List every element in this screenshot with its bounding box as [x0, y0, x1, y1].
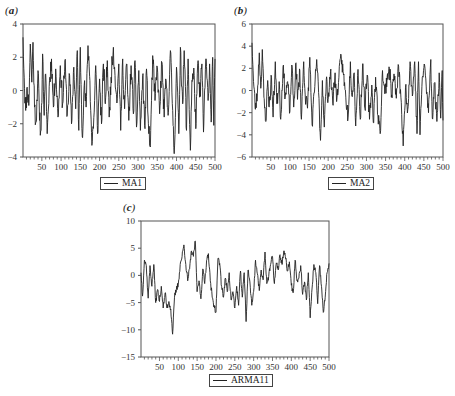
plot-frame: [141, 221, 329, 357]
legend-c: ARMA11: [209, 374, 273, 387]
x-tick-label: 400: [285, 362, 299, 372]
y-tick-label: 5: [131, 243, 136, 253]
panel-c: (c) −15−10−50510501001502002503003504004…: [0, 0, 455, 396]
x-tick-label: 300: [247, 362, 261, 372]
series-line-arma11: [141, 241, 329, 334]
legend-c-label: ARMA11: [231, 375, 269, 386]
y-tick-label: −15: [121, 352, 136, 362]
y-tick-label: 0: [131, 270, 136, 280]
x-tick-label: 450: [303, 362, 317, 372]
y-tick-label: 10: [126, 216, 136, 226]
y-tick-label: −10: [121, 325, 136, 335]
x-tick-label: 200: [209, 362, 223, 372]
x-tick-label: 350: [266, 362, 280, 372]
x-tick-label: 100: [172, 362, 186, 372]
x-tick-label: 150: [190, 362, 204, 372]
chart-c-plot: −15−10−505105010015020025030035040045050…: [0, 0, 455, 396]
y-tick-label: −5: [125, 298, 135, 308]
legend-line-swatch-icon: [213, 380, 227, 381]
x-tick-label: 50: [155, 362, 165, 372]
x-tick-label: 500: [322, 362, 336, 372]
x-tick-label: 250: [228, 362, 242, 372]
